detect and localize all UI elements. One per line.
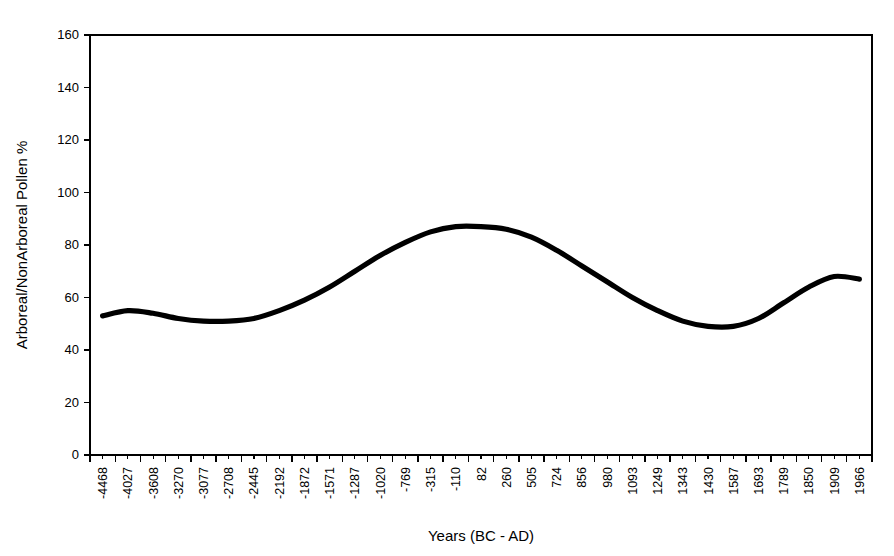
y-tick-label: 160 (57, 27, 79, 42)
y-tick-label: 0 (72, 447, 79, 462)
plot-background (90, 35, 872, 455)
y-tick-label: 20 (65, 395, 79, 410)
x-tick-label: -2708 (222, 467, 236, 499)
x-tick-label: 856 (575, 467, 589, 488)
y-tick-label: 100 (57, 185, 79, 200)
plot-frame (90, 35, 872, 455)
chart-container: 020406080100120140160 -4468-4027-3608-32… (0, 0, 894, 556)
x-tick-label: -3077 (197, 467, 211, 499)
x-tick-label: -1571 (323, 467, 337, 499)
x-tick-label: 1909 (828, 467, 842, 495)
x-tick-label: -1287 (348, 467, 362, 499)
x-tick-label: -4468 (96, 467, 110, 499)
x-tick-label: 1093 (626, 467, 640, 495)
y-tick-label: 60 (65, 290, 79, 305)
x-tick-label: 1343 (676, 467, 690, 495)
x-tick-label: 1850 (802, 467, 816, 495)
x-tick-label: 724 (550, 467, 564, 488)
y-tick-label: 40 (65, 342, 79, 357)
x-tick-label: -2192 (273, 467, 287, 499)
x-axis-tick-labels: -4468-4027-3608-3270-3077-2708-2445-2192… (96, 467, 867, 499)
y-tick-label: 120 (57, 132, 79, 147)
x-tick-label: -1872 (298, 467, 312, 499)
y-axis-tick-labels: 020406080100120140160 (57, 27, 79, 462)
y-tick-label: 80 (65, 237, 79, 252)
x-tick-label: 1966 (853, 467, 867, 495)
x-tick-label: -1020 (374, 467, 388, 499)
x-tick-label: 980 (601, 467, 615, 488)
x-tick-label: -4027 (121, 467, 135, 499)
y-tick-label: 140 (57, 80, 79, 95)
x-tick-label: 1430 (702, 467, 716, 495)
pollen-line-chart: 020406080100120140160 -4468-4027-3608-32… (0, 0, 894, 556)
x-tick-label: 1587 (727, 467, 741, 495)
x-tick-label: -3608 (147, 467, 161, 499)
x-tick-label: 1693 (752, 467, 766, 495)
x-tick-label: -315 (424, 467, 438, 492)
x-tick-label: 1789 (777, 467, 791, 495)
x-tick-label: -2445 (247, 467, 261, 499)
x-tick-label: -3270 (172, 467, 186, 499)
y-axis-title: Arboreal/NonArboreal Pollen % (13, 141, 30, 349)
x-tick-label: -110 (449, 467, 463, 491)
x-tick-label: -769 (399, 467, 413, 492)
x-tick-label: 1249 (651, 467, 665, 495)
x-tick-label: 505 (525, 467, 539, 488)
x-tick-label: 260 (500, 467, 514, 488)
x-tick-label: 82 (475, 467, 489, 481)
x-axis-title: Years (BC - AD) (428, 527, 534, 544)
